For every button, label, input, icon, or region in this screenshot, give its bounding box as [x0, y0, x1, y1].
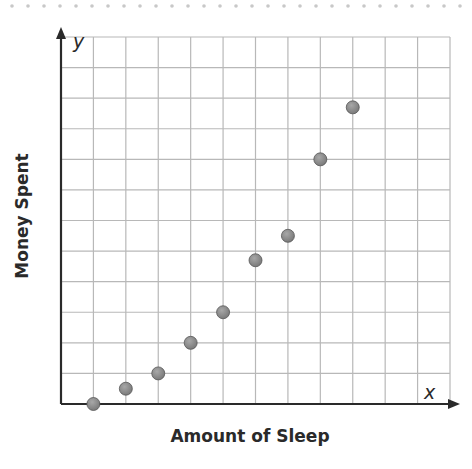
x-axis-letter: x — [424, 381, 435, 403]
data-point — [87, 398, 100, 411]
data-point — [281, 229, 294, 242]
data-point — [152, 367, 165, 380]
x-axis-arrow-icon — [448, 399, 460, 409]
data-point — [314, 153, 327, 166]
y-axis-arrow-icon — [56, 27, 66, 39]
data-point — [119, 382, 132, 395]
data-point — [249, 254, 262, 267]
y-axis-letter: y — [73, 30, 84, 52]
scatter-plot — [0, 0, 472, 469]
axes — [56, 27, 460, 409]
grid-lines — [61, 37, 450, 404]
data-point — [217, 306, 230, 319]
x-axis-label: Amount of Sleep — [130, 426, 370, 446]
data-point — [346, 101, 359, 114]
data-point — [184, 336, 197, 349]
y-axis-label: Money Spent — [12, 116, 36, 316]
